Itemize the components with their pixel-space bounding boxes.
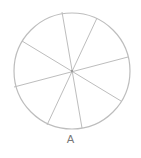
diagram-label: A xyxy=(0,133,141,146)
center-point xyxy=(71,70,73,72)
